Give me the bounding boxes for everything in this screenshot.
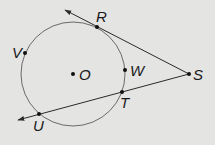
point-o-center: O <box>71 66 91 83</box>
label-w: W <box>130 62 146 79</box>
label-u: U <box>33 117 44 134</box>
point-r: R <box>95 8 107 29</box>
label-s: S <box>193 66 203 83</box>
point-t: T <box>120 90 131 111</box>
label-t: T <box>120 94 131 111</box>
label-r: R <box>96 8 107 25</box>
tangent-line-sr <box>65 10 189 74</box>
label-o: O <box>79 66 91 83</box>
secant-line-su <box>18 74 189 120</box>
point-w: W <box>123 62 146 79</box>
point-v: V <box>12 44 27 61</box>
geometry-diagram: R S T U W V O <box>0 0 215 145</box>
label-v: V <box>12 44 24 61</box>
point-s: S <box>187 66 203 83</box>
